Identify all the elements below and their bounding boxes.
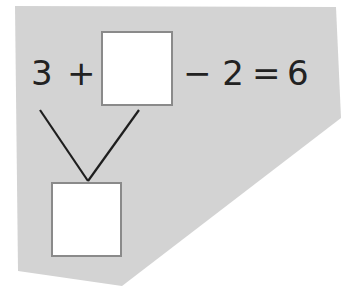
top-answer-box[interactable] [102,32,172,105]
puzzle-graphic [0,0,341,292]
plus-sign: + [67,56,96,90]
left-operand: 3 [31,56,53,90]
math-puzzle-card: 3 + − 2 = 6 [0,0,341,292]
minus-two: − 2 [183,56,244,90]
equals-sign: = [252,56,281,90]
bottom-answer-box[interactable] [52,183,121,256]
result-value: 6 [287,56,309,90]
